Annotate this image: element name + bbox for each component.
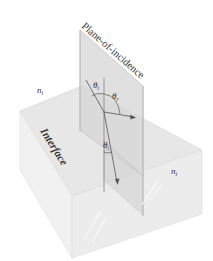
refraction-diagram: Plane-of-incidence Interface ni nt θi θr… [0,0,213,261]
n-incident-label: ni [37,85,44,96]
